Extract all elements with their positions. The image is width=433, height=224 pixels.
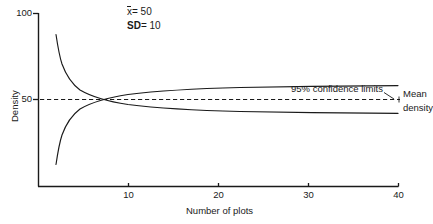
- x-tick-label-40: 40: [383, 190, 414, 201]
- x-axis-title: Number of plots: [186, 206, 253, 217]
- x-tick-label-20: 20: [203, 190, 234, 201]
- x-tick-label-10: 10: [113, 190, 144, 201]
- mean-density-label-line2: density: [403, 103, 433, 114]
- confidence-limits-label: 95% confidence limits: [291, 84, 383, 95]
- chart-container: 100 50 Density 10 20 30 40 Number of plo…: [0, 0, 433, 224]
- lower-confidence-curve: [56, 86, 398, 165]
- y-axis-title: Density: [10, 90, 21, 122]
- confidence-limits-leader-line: [384, 93, 394, 100]
- sd-symbol: SD: [127, 20, 141, 31]
- mean-symbol: x: [127, 6, 132, 18]
- sd-annotation-line: SD= 10: [127, 20, 161, 32]
- mean-annotation-line: x= 50: [127, 6, 161, 18]
- y-tick-label-100: 100: [4, 8, 32, 19]
- sd-value: = 10: [141, 20, 161, 31]
- mean-density-label: Mean density: [403, 89, 433, 114]
- mean-density-label-line1: Mean: [403, 89, 433, 100]
- upper-confidence-curve: [56, 35, 398, 114]
- statistics-annotation: x= 50 SD= 10: [127, 6, 161, 31]
- mean-value: = 50: [132, 6, 152, 17]
- x-tick-label-30: 30: [293, 190, 324, 201]
